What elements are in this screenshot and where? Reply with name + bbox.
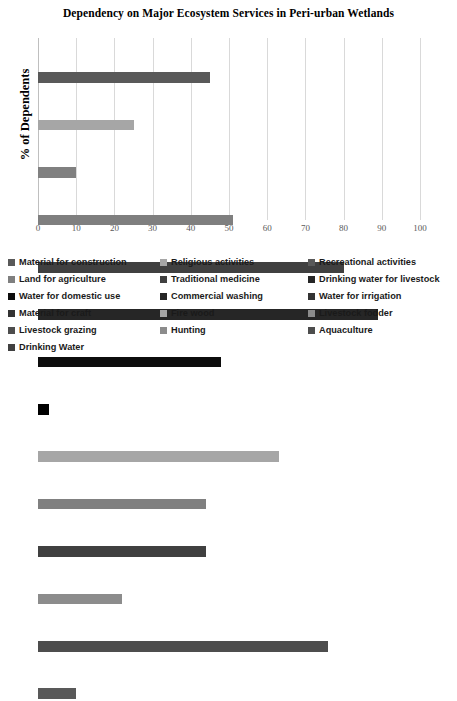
legend-item-label: Aquaculture — [319, 325, 373, 336]
legend-column-1: Material for constructionLand for agricu… — [8, 255, 160, 354]
legend-item[interactable]: Hunting — [160, 323, 308, 337]
legend-item-label: Fire wood — [171, 308, 214, 319]
bar-slot — [38, 641, 420, 654]
x-tick-label-30: 30 — [148, 223, 157, 233]
bar-slot — [38, 546, 420, 559]
legend-item[interactable]: Drinking water for livestock — [308, 272, 453, 286]
legend-swatch-icon — [160, 293, 167, 300]
x-tick-label-20: 20 — [110, 223, 119, 233]
legend-item-label: Recreational activities — [319, 257, 416, 268]
x-tick-label-0: 0 — [36, 223, 41, 233]
bar-slot — [38, 357, 420, 370]
bar-slot — [38, 499, 420, 512]
legend-item-label: Hunting — [171, 325, 206, 336]
legend-item[interactable]: Livestock grazing — [8, 323, 160, 337]
bar-livestock-fodder — [38, 594, 122, 605]
legend-item-label: Water for domestic use — [19, 291, 120, 302]
legend-item-label: Religious activities — [171, 257, 254, 268]
bar-religious-activities — [38, 120, 134, 131]
chart-legend: Material for constructionLand for agricu… — [8, 255, 453, 354]
legend-swatch-icon — [308, 327, 315, 334]
x-tick-label-40: 40 — [186, 223, 195, 233]
legend-item-label: Livestock fodder — [319, 308, 393, 319]
legend-swatch-icon — [8, 327, 15, 334]
legend-item-label: Water for irrigation — [319, 291, 401, 302]
bar-slot — [38, 451, 420, 464]
legend-column-3: Recreational activitiesDrinking water fo… — [308, 255, 453, 354]
bar-water-for-irrigation — [38, 451, 279, 462]
legend-item-label: Commercial washing — [171, 291, 263, 302]
legend-item-label: Drinking Water — [19, 342, 84, 353]
chart-title: Dependency on Major Ecosystem Services i… — [0, 7, 457, 19]
x-tick-label-70: 70 — [301, 223, 310, 233]
legend-item-label: Livestock grazing — [19, 325, 97, 336]
legend-item[interactable]: Fire wood — [160, 306, 308, 320]
legend-swatch-icon — [8, 276, 15, 283]
legend-swatch-icon — [8, 293, 15, 300]
x-tick-label-60: 60 — [263, 223, 272, 233]
legend-item[interactable]: Commercial washing — [160, 289, 308, 303]
x-tick-label-90: 90 — [377, 223, 386, 233]
x-axis-tick-labels: 0102030405060708090100 — [38, 223, 420, 239]
x-tick-label-10: 10 — [72, 223, 81, 233]
bar-fire-wood — [38, 546, 206, 557]
legend-swatch-icon — [8, 259, 15, 266]
legend-item[interactable]: Water for irrigation — [308, 289, 453, 303]
bar-slot — [38, 688, 420, 701]
legend-swatch-icon — [160, 310, 167, 317]
x-tick-label-80: 80 — [339, 223, 348, 233]
legend-item[interactable]: Drinking Water — [8, 340, 160, 354]
bar-series — [38, 38, 420, 220]
legend-item[interactable]: Religious activities — [160, 255, 308, 269]
bar-livestock-grazing — [38, 641, 328, 652]
legend-swatch-icon — [308, 259, 315, 266]
bar-slot — [38, 167, 420, 180]
legend-item-label: Drinking water for livestock — [319, 274, 440, 285]
legend-item[interactable]: Recreational activities — [308, 255, 453, 269]
legend-swatch-icon — [308, 310, 315, 317]
legend-swatch-icon — [160, 327, 167, 334]
plot-area — [38, 38, 420, 220]
legend-swatch-icon — [8, 344, 15, 351]
legend-swatch-icon — [160, 276, 167, 283]
bar-hunting — [38, 688, 76, 699]
y-axis-title: % of Dependents — [18, 50, 33, 180]
bar-material-for-craft — [38, 499, 206, 510]
legend-item[interactable]: Traditional medicine — [160, 272, 308, 286]
legend-item[interactable]: Material for craft — [8, 306, 160, 320]
bar-commercial-washing — [38, 404, 49, 415]
legend-item[interactable]: Land for agriculture — [8, 272, 160, 286]
legend-item-label: Traditional medicine — [171, 274, 260, 285]
x-tick-label-50: 50 — [225, 223, 234, 233]
legend-item-label: Material for craft — [19, 308, 91, 319]
bar-material-for-construction — [38, 72, 210, 83]
legend-item-label: Land for agriculture — [19, 274, 106, 285]
bar-slot — [38, 120, 420, 133]
legend-item[interactable]: Water for domestic use — [8, 289, 160, 303]
legend-column-2: Religious activitiesTraditional medicine… — [160, 255, 308, 354]
gridline-100 — [420, 38, 421, 220]
legend-swatch-icon — [8, 310, 15, 317]
legend-item-label: Material for construction — [19, 257, 127, 268]
x-tick-label-100: 100 — [413, 223, 427, 233]
bar-slot — [38, 72, 420, 85]
legend-swatch-icon — [160, 259, 167, 266]
legend-item[interactable]: Material for construction — [8, 255, 160, 269]
bar-slot — [38, 404, 420, 417]
bar-recreational-activities — [38, 167, 76, 178]
legend-item[interactable]: Livestock fodder — [308, 306, 453, 320]
legend-item[interactable]: Aquaculture — [308, 323, 453, 337]
legend-swatch-icon — [308, 276, 315, 283]
legend-swatch-icon — [308, 293, 315, 300]
bar-water-for-domestic-use — [38, 357, 221, 368]
bar-slot — [38, 594, 420, 607]
